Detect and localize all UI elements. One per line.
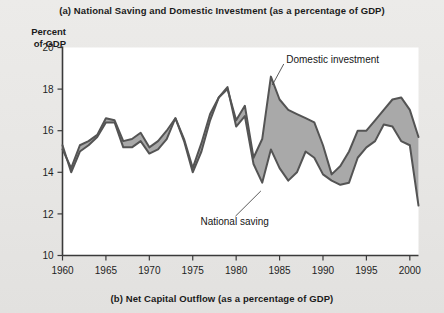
y-axis-tick-label: 20 — [42, 42, 54, 53]
y-axis-tick-label: 18 — [42, 84, 54, 95]
figure-caption-bottom: (b) Net Capital Outflow (as a percentage… — [0, 293, 444, 304]
y-axis-tick-label: 12 — [42, 209, 54, 220]
plot-area: 1012141618201960196519701975198019851990… — [0, 0, 444, 313]
x-axis-tick-label: 1980 — [225, 265, 248, 276]
x-axis-tick-label: 1970 — [138, 265, 161, 276]
x-axis-tick-label: 1995 — [355, 265, 378, 276]
x-axis-tick-label: 1965 — [95, 265, 118, 276]
x-axis-tick-label: 1985 — [268, 265, 291, 276]
chart-svg: 1012141618201960196519701975198019851990… — [0, 0, 444, 313]
annotation-domestic-investment: Domestic investment — [286, 54, 379, 65]
x-axis-tick-label: 1990 — [312, 265, 335, 276]
x-axis-tick-label: 2000 — [399, 265, 422, 276]
figure-container: (a) National Saving and Domestic Investm… — [0, 0, 444, 313]
y-axis-tick-label: 10 — [42, 250, 54, 261]
y-axis-tick-label: 14 — [42, 167, 54, 178]
x-axis-tick-label: 1960 — [51, 265, 74, 276]
y-axis-tick-label: 16 — [42, 125, 54, 136]
x-axis-tick-label: 1975 — [182, 265, 205, 276]
annotation-national-saving: National saving — [200, 216, 268, 227]
